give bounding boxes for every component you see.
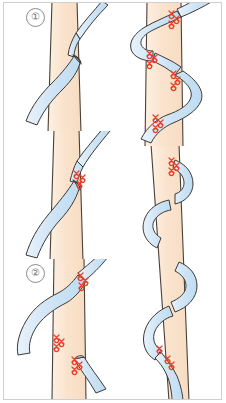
panel-label-1: ① [26, 8, 45, 27]
panel-4-illustration [113, 3, 222, 146]
panel-2-illustration [4, 131, 113, 259]
panel-1: ① [4, 3, 113, 131]
panel-2: ② [4, 131, 113, 259]
panel-5-illustration [113, 146, 222, 399]
panel-3-illustration [4, 259, 113, 399]
panel-3: ③ [4, 259, 113, 399]
panel-5: ⑤ [113, 146, 222, 399]
figure-root: ① [0, 0, 226, 403]
panel-4: ④ [113, 3, 222, 146]
vein-segment-top [177, 3, 213, 17]
panel-1-illustration [4, 3, 113, 131]
